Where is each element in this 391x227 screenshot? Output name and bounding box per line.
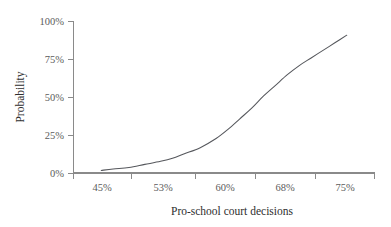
probability-line-chart: 100% 75% 50% 25% 0% 45% 53% 60% 68% 75% … <box>0 0 391 227</box>
y-axis-title: Probability <box>14 71 27 122</box>
x-tick-marks <box>74 173 375 179</box>
y-tick-marks <box>68 22 74 174</box>
chart-figure: 100% 75% 50% 25% 0% 45% 53% 60% 68% 75% … <box>0 0 391 227</box>
probability-curve <box>101 35 347 170</box>
x-tick-label-60: 60% <box>215 182 235 193</box>
x-tick-label-53: 53% <box>153 182 173 193</box>
y-tick-label-75: 75% <box>45 54 65 65</box>
y-tick-label-50: 50% <box>45 92 65 103</box>
x-tick-label-45: 45% <box>92 182 112 193</box>
y-tick-label-0: 0% <box>50 168 64 179</box>
x-tick-label-68: 68% <box>275 182 295 193</box>
y-tick-label-25: 25% <box>45 130 65 141</box>
y-tick-label-100: 100% <box>40 16 65 27</box>
x-axis-title: Pro-school court decisions <box>171 205 294 217</box>
x-tick-label-75: 75% <box>335 182 355 193</box>
